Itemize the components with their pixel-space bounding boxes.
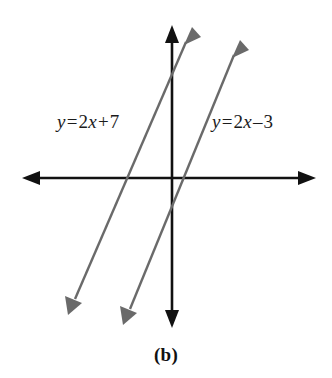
label2-operator: – [252,111,264,132]
x-axis-left-arrowhead [22,171,40,185]
label2-x-variable: x [243,111,252,132]
x-axis-right-arrowhead [298,171,316,185]
line1-upper-arrowhead [184,27,201,45]
equation-label-line-2: y=2x–3 [212,112,273,131]
label1-equals-sign: = [66,111,79,132]
label1-x-variable: x [88,111,97,132]
figure-caption: (b) [0,344,332,366]
x-axis [22,171,316,185]
figure-container: y=2x+7 y=2x–3 (b) [0,0,332,378]
equation-label-line-1: y=2x+7 [57,112,120,131]
y-axis-bottom-arrowhead [165,310,179,328]
line2-upper-arrowhead [232,40,249,58]
label2-y-variable: y [212,111,221,132]
coordinate-graph [0,0,332,378]
line-y-equals-2x-minus-3 [120,40,249,325]
label1-y-variable: y [57,111,66,132]
line-y-equals-2x-plus-7 [65,27,201,315]
label1-coefficient: 2 [79,111,89,132]
label2-coefficient: 2 [234,111,244,132]
y-axis-top-arrowhead [165,25,179,43]
label2-equals-sign: = [221,111,234,132]
label1-operator: + [97,111,110,132]
line2-lower-arrowhead [120,306,137,325]
label1-constant: 7 [110,111,120,132]
line1-lower-arrowhead [65,296,82,315]
label2-constant: 3 [264,111,274,132]
y-axis [165,25,179,328]
